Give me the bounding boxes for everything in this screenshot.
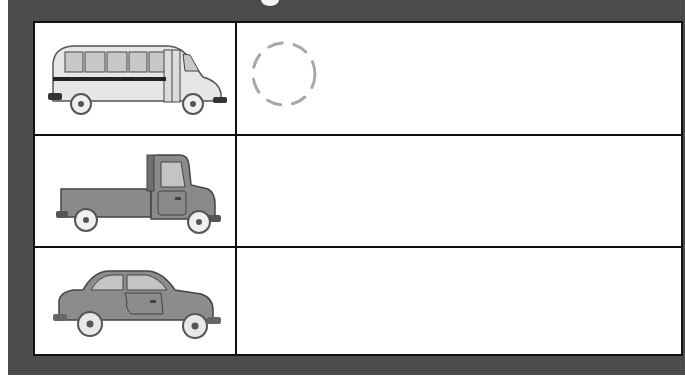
bus-icon [43, 41, 228, 116]
table-row-bus [35, 23, 681, 134]
dashed-trace-circle-icon [249, 39, 319, 109]
table-row-truck [35, 134, 681, 246]
worksheet-frame [8, 0, 685, 375]
image-cell [35, 248, 237, 356]
title-text-fragment [261, 0, 279, 6]
car-icon [43, 262, 228, 342]
vehicle-table [33, 21, 683, 356]
image-cell [35, 23, 237, 134]
truck-icon [43, 149, 228, 234]
table-row-car [35, 246, 681, 356]
answer-cell-truck[interactable] [237, 136, 681, 246]
answer-cell-bus[interactable] [237, 23, 681, 134]
answer-cell-car[interactable] [237, 248, 681, 356]
image-cell [35, 136, 237, 246]
